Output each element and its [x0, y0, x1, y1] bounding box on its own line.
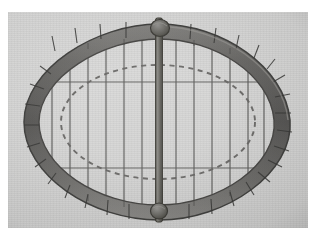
spine-joint-top: [151, 20, 170, 37]
figure-root: [0, 0, 315, 237]
frame-drawing: [8, 12, 308, 228]
figure-plate: [8, 12, 308, 228]
spine-joint-bottom: [151, 203, 168, 219]
caption-ghost-strip: [0, 0, 315, 12]
central-spine: [156, 18, 163, 222]
